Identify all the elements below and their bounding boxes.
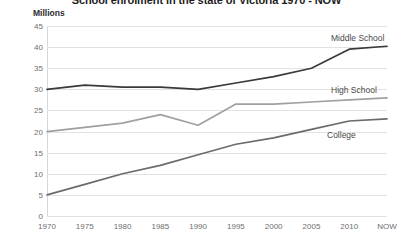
x-axis-tick-label: 1995 (227, 222, 245, 231)
y-axis-tick-label: 30 (9, 85, 43, 94)
x-axis-tick-label: 2005 (303, 222, 321, 231)
x-axis-tick-label: 1985 (151, 222, 169, 231)
y-axis-tick-label: 5 (9, 190, 43, 199)
x-axis-tick-label: 1980 (114, 222, 132, 231)
y-axis-tick-label: 35 (9, 64, 43, 73)
x-axis-tick-label: NOW (377, 222, 397, 231)
y-axis-tick-label: 15 (9, 148, 43, 157)
y-axis-tick-label: 25 (9, 106, 43, 115)
gridline (47, 216, 387, 217)
series-label-college: College (327, 130, 356, 140)
y-axis-tick-label: 20 (9, 127, 43, 136)
line-chart: School enrolment in the state of Victori… (0, 0, 413, 248)
x-axis-tick-label: 2010 (340, 222, 358, 231)
plot-area (47, 26, 387, 216)
y-axis-ticks: 051015202530354045 (5, 26, 43, 216)
x-axis-tick-label: 1975 (76, 222, 94, 231)
y-axis-tick-label: 45 (9, 22, 43, 31)
series-label-middle-school: Middle School (331, 33, 384, 43)
y-axis-tick-label: 40 (9, 43, 43, 52)
chart-title: School enrolment in the state of Victori… (0, 0, 413, 6)
x-axis-tick-label: 1970 (38, 222, 56, 231)
series-line (47, 98, 387, 132)
x-axis-tick-label: 2000 (265, 222, 283, 231)
series-lines (47, 26, 387, 216)
y-axis-tick-label: 0 (9, 212, 43, 221)
series-line (47, 46, 387, 89)
y-axis-tick-label: 10 (9, 169, 43, 178)
x-axis-tick-label: 1990 (189, 222, 207, 231)
series-label-high-school: High School (331, 85, 377, 95)
x-axis-ticks: 197019751980198519901995200020052010NOW (47, 222, 387, 238)
y-axis-unit-label: Millions (33, 8, 65, 18)
